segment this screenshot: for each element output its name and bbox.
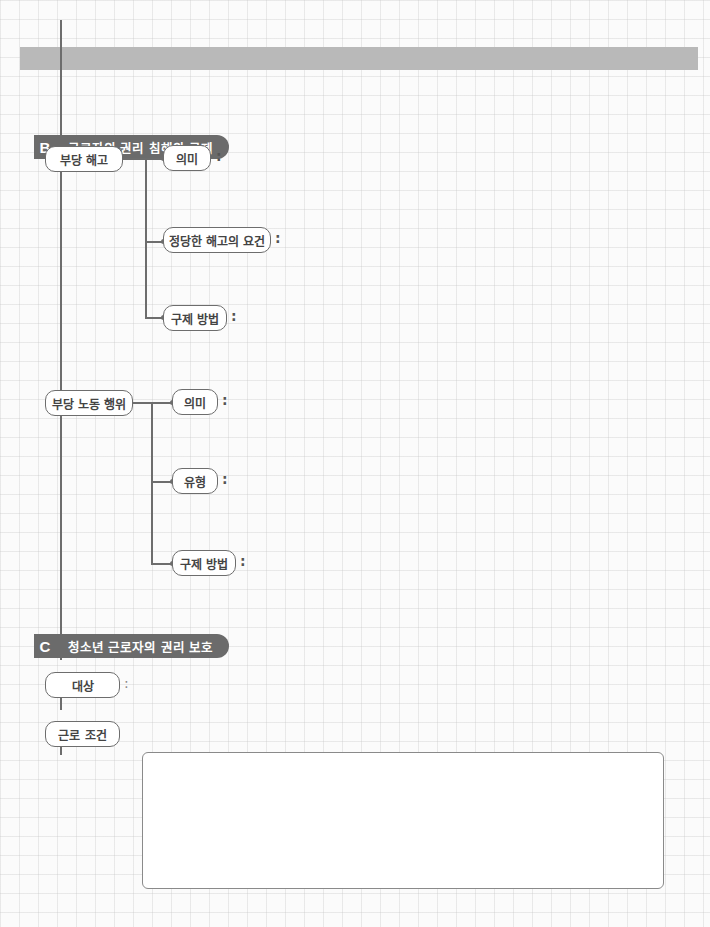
subtopic-meaning: 의미: [163, 145, 211, 171]
subtopic-meaning: 의미: [172, 389, 218, 415]
subtopic-label: 의미: [184, 394, 206, 411]
subtopic-label: 유형: [184, 473, 206, 490]
header-bar: [20, 47, 698, 70]
subtopic-label: 구제 방법: [171, 310, 219, 327]
topic-target: 대상: [45, 672, 120, 698]
section-title: 청소년 근로자의 권리 보호: [56, 634, 229, 658]
section-letter: C: [34, 634, 56, 658]
topic-unfair-labor-practice: 부당 노동 행위: [45, 390, 133, 416]
colon: :: [222, 471, 228, 487]
subtopic-label: 의미: [176, 150, 198, 167]
colon: :: [231, 308, 237, 324]
topic-working-conditions: 근로 조건: [45, 721, 120, 747]
connector-line: [133, 402, 173, 404]
subtopic-remedy: 구제 방법: [172, 550, 236, 576]
colon: :: [275, 230, 281, 246]
subtopic-types: 유형: [172, 468, 218, 494]
subtopic-requirements: 정당한 해고의 요건: [163, 227, 271, 253]
trunk-line: [60, 415, 62, 660]
topic-label: 근로 조건: [58, 726, 106, 743]
trunk-line: [60, 20, 62, 140]
colon: :: [240, 553, 246, 569]
connector-line: [123, 158, 163, 160]
section-c-header: C 청소년 근로자의 권리 보호: [34, 634, 229, 658]
subtopic-label: 구제 방법: [180, 555, 228, 572]
branch-line: [151, 402, 153, 564]
colon: :: [222, 392, 228, 408]
topic-label: 부당 해고: [60, 151, 108, 168]
branch-line: [145, 158, 147, 318]
topic-label: 부당 노동 행위: [52, 395, 126, 412]
colon: :: [216, 148, 222, 164]
subtopic-label: 정당한 해고의 요건: [169, 232, 265, 249]
working-conditions-answer-box[interactable]: [142, 752, 664, 889]
topic-unfair-dismissal: 부당 해고: [45, 146, 123, 172]
colon: :: [124, 675, 129, 691]
subtopic-remedy: 구제 방법: [163, 305, 227, 331]
topic-label: 대상: [72, 677, 94, 694]
trunk-line: [60, 170, 62, 395]
